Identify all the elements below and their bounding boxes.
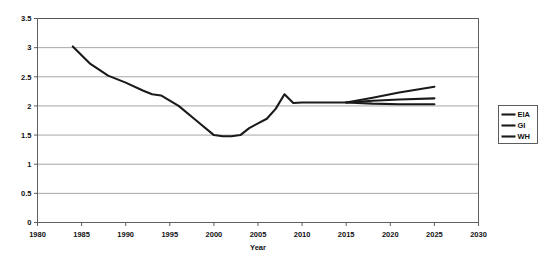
x-tick-label: 2015 (338, 230, 355, 239)
x-tick-label: 2025 (426, 230, 443, 239)
x-tick-label: 1995 (161, 230, 178, 239)
x-tick-label: 1985 (73, 230, 90, 239)
series-line-eia (73, 46, 435, 136)
y-tick-label: 0 (27, 218, 31, 227)
x-tick-label: 2020 (382, 230, 399, 239)
x-tick-label: 1980 (29, 230, 46, 239)
x-tick-label: 2030 (470, 230, 487, 239)
y-tick-label: 2 (27, 102, 31, 111)
axes (38, 19, 479, 223)
x-axis-title: Year (250, 243, 266, 252)
series-group (73, 46, 435, 136)
y-tick-label: 1 (27, 160, 31, 169)
legend-label-wh: WH (518, 132, 531, 141)
x-axis-ticks: 1980198519901995200020052010201520202025… (29, 223, 487, 239)
chart-canvas: 00.511.522.533.5198019851990199520002005… (0, 0, 547, 255)
legend-label-gi: GI (518, 121, 526, 130)
line-chart: 00.511.522.533.5198019851990199520002005… (0, 0, 547, 255)
legend-label-eia: EIA (518, 110, 531, 119)
y-tick-label: 0.5 (21, 189, 31, 198)
x-tick-label: 2005 (250, 230, 267, 239)
grid-lines (38, 19, 479, 194)
y-tick-label: 2.5 (21, 73, 31, 82)
legend: EIAGIWH (499, 106, 538, 144)
y-tick-label: 1.5 (21, 131, 31, 140)
x-tick-label: 2000 (206, 230, 223, 239)
x-tick-label: 1990 (117, 230, 134, 239)
y-tick-label: 3 (27, 43, 31, 52)
y-axis-ticks: 00.511.522.533.5 (21, 14, 37, 227)
x-tick-label: 2010 (294, 230, 311, 239)
y-tick-label: 3.5 (21, 14, 31, 23)
series-line-wh (346, 102, 434, 104)
